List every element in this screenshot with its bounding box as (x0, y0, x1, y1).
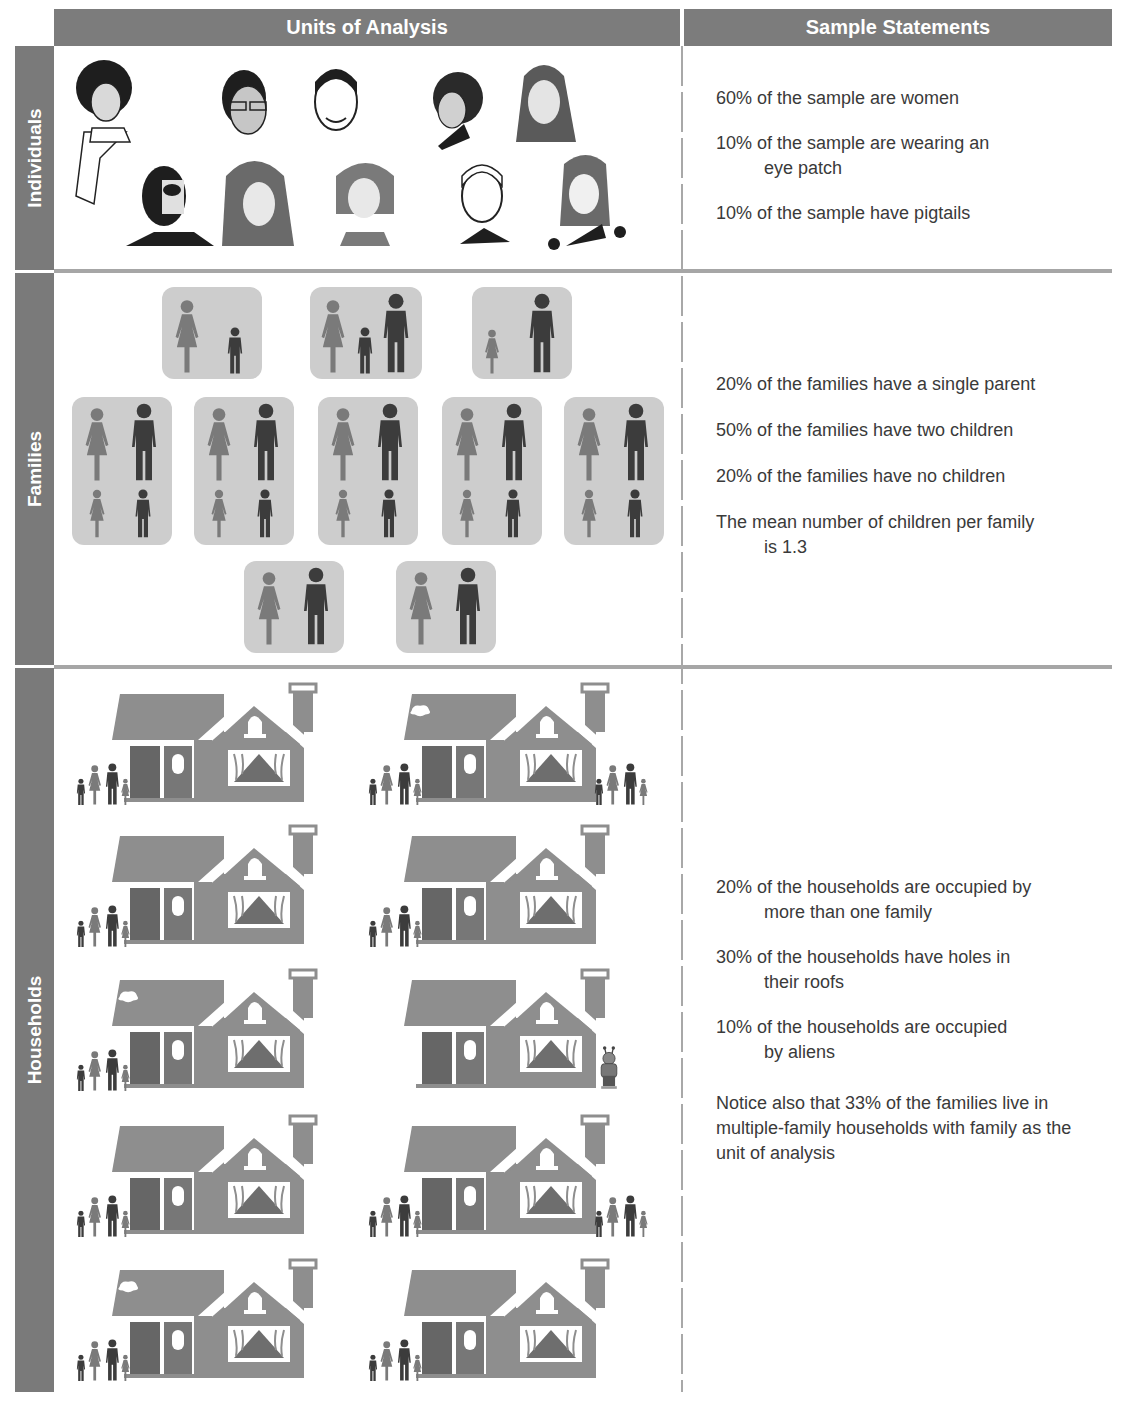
family-box (396, 561, 496, 653)
individuals-row-label: Individuals (15, 46, 54, 270)
family-box (310, 287, 422, 379)
woman-icon (204, 407, 234, 483)
statement: 60% of the sample are women (716, 86, 1111, 111)
woman-icon (452, 407, 482, 483)
households-row-label: Households (15, 668, 54, 1392)
girl-icon (332, 489, 354, 539)
family-group-icon (364, 902, 434, 948)
family-group-icon (72, 902, 142, 948)
man-icon (380, 293, 412, 375)
family-box (442, 397, 542, 545)
households-panel (54, 668, 680, 1392)
portrait-curly-hair-woman (433, 72, 483, 150)
boy-icon (354, 327, 376, 375)
portrait-man-with-glasses (222, 70, 266, 134)
woman-icon (574, 407, 604, 483)
families-statements: 20% of the families have a single parent… (716, 372, 1111, 560)
portrait-bob-hair-woman (336, 163, 394, 246)
boy-icon (624, 489, 646, 539)
family-group-icon (590, 760, 660, 806)
column-divider (681, 46, 683, 1392)
family-group-icon (364, 760, 434, 806)
statement: 20% of the households are occupied bymor… (716, 875, 1111, 925)
portrait-afro-woman (76, 60, 132, 204)
family-group-icon (72, 1192, 142, 1238)
girl-icon (208, 489, 230, 539)
portrait-long-hair-woman (516, 65, 576, 142)
girl-icon (482, 329, 502, 375)
boy-icon (132, 489, 154, 539)
girl-icon (86, 489, 108, 539)
man-icon (452, 567, 484, 647)
statement: Notice also that 33% of the families liv… (716, 1091, 1101, 1166)
family-box (72, 397, 172, 545)
man-icon (374, 403, 406, 483)
man-icon (300, 567, 332, 647)
statement: The mean number of children per familyis… (716, 510, 1111, 560)
portrait-pigtails-girl (548, 155, 626, 250)
statement: 20% of the families have a single parent (716, 372, 1111, 397)
statement: 10% of the sample are wearing aneye patc… (716, 131, 1111, 181)
portraits-illustration (54, 46, 680, 268)
boy-icon (254, 489, 276, 539)
roof-hole-icon (116, 1280, 142, 1294)
family-group-icon (72, 1336, 142, 1382)
units-of-analysis-header: Units of Analysis (54, 9, 680, 46)
family-box (318, 397, 418, 545)
portrait-clean-cut-man (460, 165, 510, 244)
individuals-panel (54, 46, 680, 268)
family-box (564, 397, 664, 545)
boy-icon (502, 489, 524, 539)
house-icon (386, 968, 616, 1088)
families-panel (54, 273, 680, 665)
roof-hole-icon (116, 990, 142, 1004)
sample-statements-header: Sample Statements (684, 9, 1112, 46)
statement: 10% of the sample have pigtails (716, 201, 1111, 226)
family-box (472, 287, 572, 379)
woman-icon (254, 571, 284, 647)
household (386, 968, 616, 1088)
woman-icon (318, 299, 348, 375)
statement: 10% of the households are occupiedby ali… (716, 1015, 1111, 1065)
statement: 50% of the families have two children (716, 418, 1111, 443)
girl-icon (456, 489, 478, 539)
family-box (244, 561, 344, 653)
man-icon (250, 403, 282, 483)
boy-icon (378, 489, 400, 539)
woman-icon (172, 299, 202, 375)
families-row-label: Families (15, 273, 54, 665)
statement: 20% of the families have no children (716, 464, 1111, 489)
man-icon (128, 403, 160, 483)
individuals-statements: 60% of the sample are women 10% of the s… (716, 86, 1111, 226)
family-group-icon (72, 760, 142, 806)
boy-icon (224, 327, 246, 375)
woman-icon (328, 407, 358, 483)
family-group-icon (364, 1192, 434, 1238)
roof-hole-icon (408, 704, 434, 718)
family-group-icon (590, 1192, 660, 1238)
woman-icon (406, 571, 436, 647)
alien-icon (596, 1044, 622, 1092)
woman-icon (82, 407, 112, 483)
portrait-eye-patch-bearded-man (126, 166, 214, 246)
man-icon (526, 293, 558, 375)
portrait-wavy-hair-woman (222, 161, 294, 246)
households-statements: 20% of the households are occupied bymor… (716, 875, 1111, 1166)
family-group-icon (72, 1046, 142, 1092)
girl-icon (578, 489, 600, 539)
family-group-icon (364, 1336, 434, 1382)
statement: 30% of the households have holes intheir… (716, 945, 1111, 995)
portrait-smiling-man (315, 69, 357, 130)
man-icon (498, 403, 530, 483)
family-box (194, 397, 294, 545)
man-icon (620, 403, 652, 483)
family-box (162, 287, 262, 379)
